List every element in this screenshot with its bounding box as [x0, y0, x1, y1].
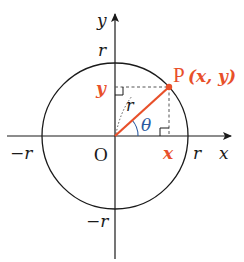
- r-neg-y-label: −r: [86, 211, 109, 231]
- angle-arc: [132, 120, 138, 136]
- unit-circle-diagram: y r y r θ P (x, y) −r O x r x −r: [0, 0, 244, 262]
- y-axis-label: y: [96, 10, 107, 30]
- x-axis-label: x: [219, 143, 229, 163]
- r-pos-y-label: r: [98, 40, 107, 60]
- r-pos-x-label: r: [193, 143, 202, 163]
- x-projection-label: x: [162, 143, 174, 163]
- radius-label: r: [126, 96, 135, 115]
- right-angle-marker-y: [115, 87, 123, 95]
- r-neg-x-label: −r: [10, 143, 33, 163]
- angle-label: θ: [141, 115, 151, 135]
- point-name-label: P: [173, 63, 185, 87]
- point-P: [166, 84, 172, 90]
- origin-label: O: [94, 144, 108, 165]
- y-projection-label: y: [95, 78, 107, 98]
- right-angle-marker-x: [160, 128, 169, 136]
- point-coords-label: (x, y): [188, 66, 236, 86]
